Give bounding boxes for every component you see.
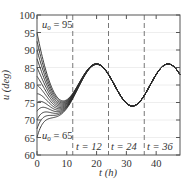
x-tick-label: 10 <box>62 158 73 169</box>
y-tick-label: 75 <box>25 98 36 109</box>
annotation-u0-95: u0 = 95 <box>42 19 72 32</box>
y-tick-label: 65 <box>25 133 36 144</box>
y-tick-label: 60 <box>25 150 36 161</box>
chart: 010203040 6065707580859095100 t (h) u (d… <box>0 0 188 187</box>
y-tick-labels: 6065707580859095100 <box>19 10 35 161</box>
y-tick-label: 85 <box>25 63 36 74</box>
y-axis-label: u (deg) <box>0 69 12 100</box>
x-tick-label: 0 <box>34 158 39 169</box>
y-tick-label: 70 <box>25 115 36 126</box>
x-tick-labels: 010203040 <box>34 158 161 169</box>
y-tick-label: 80 <box>25 80 36 91</box>
label-t36: t = 36 <box>147 141 174 152</box>
y-tick-label: 90 <box>25 45 36 56</box>
y-tick-label: 95 <box>25 28 36 39</box>
label-t24: t = 24 <box>111 141 138 152</box>
y-tick-label: 100 <box>19 10 35 21</box>
label-t12: t = 12 <box>76 141 103 152</box>
x-axis-label: t (h) <box>99 167 117 179</box>
x-tick-label: 30 <box>121 158 132 169</box>
x-tick-label: 40 <box>151 158 162 169</box>
annotation-u0-65: u0 = 65 <box>42 130 72 143</box>
